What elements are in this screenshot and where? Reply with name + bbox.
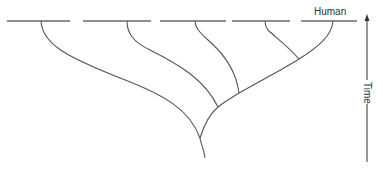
branch-human-lineage: [200, 21, 333, 138]
branch-lineage-3: [195, 21, 239, 93]
time-axis-label: Time: [362, 82, 373, 104]
arrow-up-icon: [365, 14, 370, 21]
branch-lineage-2: [127, 21, 218, 107]
phylogeny-diagram: Human Time: [0, 0, 383, 172]
branch-lineage-1: [41, 21, 200, 138]
branch-lineage-4: [265, 21, 299, 59]
root-stem: [200, 138, 205, 158]
tip-label-human: Human: [314, 6, 346, 17]
